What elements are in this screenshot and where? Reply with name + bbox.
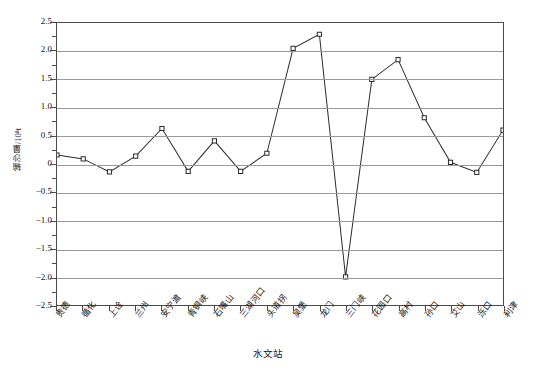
- y-axis-minor-tick-mark: [52, 150, 56, 151]
- gridline: [57, 278, 503, 279]
- y-axis-tick-mark: [50, 79, 56, 80]
- data-point-marker: [212, 139, 216, 143]
- data-point-marker: [160, 126, 164, 130]
- y-axis-minor-tick-mark: [52, 178, 56, 179]
- data-point-marker: [396, 58, 400, 62]
- y-axis-tick-label: 1.0: [22, 102, 52, 111]
- y-axis-tick-label: 2.0: [22, 45, 52, 54]
- y-axis-tick-label: −1.5: [22, 244, 52, 253]
- data-point-marker: [186, 169, 190, 173]
- y-axis-tick-mark: [50, 22, 56, 23]
- y-axis-tick-label: −2.0: [22, 273, 52, 282]
- gridline: [57, 250, 503, 251]
- data-point-marker: [422, 116, 426, 120]
- y-axis-tick-mark: [50, 107, 56, 108]
- y-axis-tick-mark: [50, 164, 56, 165]
- gridline: [57, 79, 503, 80]
- series-polyline: [57, 34, 503, 277]
- y-axis-tick-mark: [50, 221, 56, 222]
- y-axis-tick-label: 0: [22, 159, 52, 168]
- data-point-marker: [134, 154, 138, 158]
- y-axis-minor-tick-mark: [52, 93, 56, 94]
- y-axis-tick-mark: [50, 278, 56, 279]
- data-point-marker: [475, 170, 479, 174]
- y-axis-tick-label: 0.5: [22, 131, 52, 140]
- gridline: [57, 108, 503, 109]
- chart-figure: 输沙量/10⁸t 2.52.01.51.00.50−0.5−1.0−1.5−2.…: [0, 0, 535, 372]
- y-axis-tick-mark: [50, 249, 56, 250]
- data-point-marker: [57, 153, 59, 157]
- y-axis-minor-tick-mark: [52, 36, 56, 37]
- data-point-marker: [107, 170, 111, 174]
- y-axis-tick-labels: 2.52.01.51.00.50−0.5−1.0−1.5−2.0−2.5: [16, 0, 52, 372]
- data-point-marker: [317, 32, 321, 36]
- y-axis-tick-label: 2.5: [22, 17, 52, 26]
- data-point-marker: [239, 169, 243, 173]
- y-axis-tick-mark: [50, 50, 56, 51]
- y-axis-minor-tick-mark: [52, 263, 56, 264]
- y-axis-minor-tick-mark: [52, 207, 56, 208]
- y-axis-tick-label: −1.0: [22, 216, 52, 225]
- gridline: [57, 221, 503, 222]
- y-axis-tick-mark: [50, 136, 56, 137]
- data-point-marker: [501, 128, 503, 132]
- x-axis-tick-label: 利津: [502, 300, 520, 320]
- x-axis-title: 水文站: [0, 346, 535, 360]
- gridline: [57, 136, 503, 137]
- y-axis-minor-tick-mark: [52, 65, 56, 66]
- data-point-marker: [81, 157, 85, 161]
- y-axis-minor-tick-mark: [52, 292, 56, 293]
- y-axis-tick-mark: [50, 192, 56, 193]
- y-axis-minor-tick-mark: [52, 121, 56, 122]
- y-axis-tick-label: −0.5: [22, 187, 52, 196]
- y-axis-tick-label: 1.5: [22, 74, 52, 83]
- gridline: [57, 193, 503, 194]
- gridline: [57, 51, 503, 52]
- plot-area: [56, 22, 504, 306]
- gridline: [57, 165, 503, 166]
- y-axis-tick-label: −2.5: [22, 301, 52, 310]
- y-axis-minor-tick-mark: [52, 235, 56, 236]
- data-point-marker: [291, 46, 295, 50]
- data-point-marker: [265, 151, 269, 155]
